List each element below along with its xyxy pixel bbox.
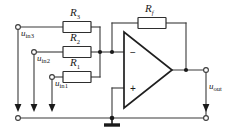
input-uin3-subscript: in3 — [26, 32, 35, 39]
junction-summing-node — [98, 50, 102, 54]
input-uin3-label: uin3 — [21, 28, 35, 39]
circuit-schematic-canvas: R3 R2 R1 Rf − + — [0, 0, 236, 134]
output-uout-subscript: out — [214, 85, 223, 92]
resistor-rf: Rf — [138, 2, 166, 29]
terminal-uin1[interactable] — [50, 75, 55, 80]
resistor-r1-subscript: 1 — [77, 63, 80, 70]
branch-noninverting-ground — [112, 88, 124, 118]
resistor-r2-subscript: 2 — [77, 38, 80, 45]
terminal-uout[interactable] — [204, 68, 209, 73]
operational-amplifier: − + — [124, 32, 172, 108]
resistor-r2: R2 — [63, 31, 91, 58]
ground-symbol — [104, 118, 120, 125]
input-uin1-subscript: in1 — [60, 82, 68, 89]
output-uout-label: uout — [209, 81, 222, 92]
resistor-r3: R3 — [63, 6, 91, 33]
circuit-diagram-figure: R3 R2 R1 Rf − + — [0, 0, 236, 134]
resistor-r1: R1 — [63, 56, 91, 83]
junction-output-node — [184, 68, 188, 72]
resistor-r3-label: R3 — [69, 6, 81, 20]
resistor-rf-label: Rf — [144, 2, 155, 16]
terminal-ground-left[interactable] — [16, 116, 21, 121]
resistor-rf-subscript: f — [152, 9, 155, 16]
opamp-inverting-sign: − — [130, 47, 136, 58]
output-arrow-leg — [203, 104, 210, 112]
input-uin2-subscript: in2 — [42, 57, 50, 64]
input-uin2-label: uin2 — [37, 53, 50, 64]
source-return-legs — [15, 27, 56, 112]
terminal-uin3[interactable] — [16, 25, 21, 30]
terminal-ground-right[interactable] — [204, 116, 209, 121]
terminal-uin2[interactable] — [32, 50, 37, 55]
branch-output — [172, 70, 206, 115]
junction-feedback-tap — [110, 50, 114, 54]
opamp-noninverting-sign: + — [130, 83, 136, 94]
resistor-r3-subscript: 3 — [77, 13, 81, 20]
